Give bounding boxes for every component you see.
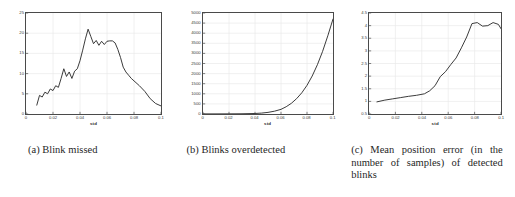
x-tick-label: 0.02 (392, 116, 400, 120)
x-tick-label: 0 (201, 116, 203, 120)
y-tick-label: 25 (19, 11, 24, 15)
chart-panel-c: 0.511.522.533.544.500.020.040.060.080.1s… (343, 0, 515, 140)
x-tick-label: 0.1 (158, 116, 164, 120)
x-tick-label: 0.08 (471, 116, 479, 120)
x-tick-label: 0.06 (444, 116, 452, 120)
y-tick-label: 5 (22, 92, 24, 96)
chart-panel-b: 0500100015002000250030003500400045005000… (172, 0, 344, 140)
caption-a: (a) Blink missed (0, 141, 172, 197)
plot-area-a: 051015202500.020.040.060.080.1std (25, 12, 162, 115)
plot-area-b: 0500100015002000250030003500400045005000… (202, 12, 334, 115)
x-tick-label: 0.06 (103, 116, 111, 120)
y-tick-label: 1500 (191, 82, 200, 86)
y-tick-label: 4500 (191, 21, 200, 25)
plot-area-c: 0.511.522.533.544.500.020.040.060.080.1s… (368, 12, 502, 115)
y-tick-label: 0 (198, 112, 200, 116)
y-tick-label: 10 (19, 71, 24, 75)
y-tick-label: 2000 (191, 71, 200, 75)
y-tick-label: 4.5 (361, 11, 367, 15)
y-tick-label: 5000 (191, 11, 200, 15)
x-tick-label: 0.04 (251, 116, 259, 120)
y-tick-label: 500 (194, 102, 201, 106)
plot-canvas-c (369, 13, 501, 114)
y-tick-label: 4000 (191, 31, 200, 35)
y-tick-label: 3.5 (361, 36, 367, 40)
x-axis-label: std (432, 121, 439, 126)
figure-container: 051015202500.020.040.060.080.1std 050010… (0, 0, 515, 197)
y-tick-label: 0 (22, 112, 24, 116)
x-tick-label: 0.06 (277, 116, 285, 120)
x-tick-label: 0 (368, 116, 370, 120)
y-tick-label: 2500 (191, 61, 200, 65)
data-line-a (37, 29, 161, 106)
x-tick-label: 0.08 (303, 116, 311, 120)
y-tick-label: 0.5 (361, 112, 367, 116)
caption-c: (c) Mean position error (in the number o… (343, 141, 515, 197)
chart-panel-a: 051015202500.020.040.060.080.1std (0, 0, 172, 140)
x-tick-label: 0.08 (130, 116, 138, 120)
y-tick-label: 1.5 (361, 87, 367, 91)
y-tick-label: 4 (365, 24, 367, 28)
x-tick-label: 0.1 (330, 116, 336, 120)
x-tick-label: 0.02 (49, 116, 57, 120)
y-tick-label: 1 (365, 99, 367, 103)
y-tick-label: 15 (19, 51, 24, 55)
plot-canvas-b (203, 13, 333, 114)
x-axis-label: std (90, 121, 97, 126)
y-tick-label: 3 (365, 49, 367, 53)
x-tick-label: 0.04 (418, 116, 426, 120)
y-tick-label: 3500 (191, 41, 200, 45)
y-tick-label: 3000 (191, 51, 200, 55)
x-tick-label: 0 (25, 116, 27, 120)
x-tick-label: 0.1 (498, 116, 504, 120)
y-tick-label: 2.5 (361, 61, 367, 65)
plot-canvas-a (26, 13, 161, 114)
plot-panels-row: 051015202500.020.040.060.080.1std 050010… (0, 0, 515, 140)
y-tick-label: 1000 (191, 92, 200, 96)
caption-b: (b) Blinks overdetected (172, 141, 344, 197)
captions-row: (a) Blink missed (b) Blinks overdetected… (0, 141, 515, 197)
x-tick-label: 0.04 (76, 116, 84, 120)
x-axis-label: std (264, 121, 271, 126)
y-tick-label: 2 (365, 74, 367, 78)
x-tick-label: 0.02 (225, 116, 233, 120)
y-tick-label: 20 (19, 31, 24, 35)
